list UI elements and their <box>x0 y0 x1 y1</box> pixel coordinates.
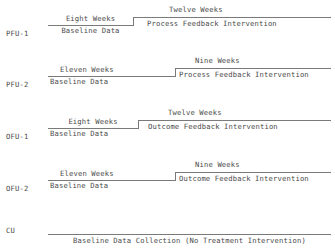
intervention-rule-ofu-2 <box>175 172 331 173</box>
intervention-phase-pfu-2: Nine Weeks Process Feedback Intervention <box>175 56 331 80</box>
group-label-cu: CU <box>6 226 15 235</box>
baseline-phase-ofu-1: Eight Weeks Baseline Data <box>48 117 138 141</box>
baseline-duration-ofu-1: Eight Weeks <box>48 117 138 126</box>
group-label-ofu-1: OFU-1 <box>6 132 28 141</box>
intervention-duration-pfu-1: Twelve Weeks <box>133 5 335 14</box>
group-label-ofu-2: OFU-2 <box>6 184 28 193</box>
intervention-phase-ofu-1: Twelve Weeks Outcome Feedback Interventi… <box>138 108 331 132</box>
intervention-duration-pfu-2: Nine Weeks <box>175 56 335 65</box>
step-riser-ofu-1 <box>138 120 139 129</box>
intervention-duration-ofu-1: Twelve Weeks <box>138 108 335 117</box>
research-design-diagram: PFU-1 Twelve Weeks Process Feedback Inte… <box>0 0 335 248</box>
intervention-phase-ofu-2: Nine Weeks Outcome Feedback Intervention <box>175 160 331 184</box>
design-row-ofu-1: OFU-1 Twelve Weeks Outcome Feedback Inte… <box>0 103 335 151</box>
intervention-activity-ofu-1: Outcome Feedback Intervention <box>138 122 335 131</box>
intervention-duration-ofu-2: Nine Weeks <box>175 160 335 169</box>
baseline-activity-ofu-2: Baseline Data <box>48 181 177 190</box>
baseline-duration-pfu-2: Eleven Weeks <box>48 65 187 74</box>
baseline-duration-ofu-2: Eleven Weeks <box>48 169 187 178</box>
intervention-phase-pfu-1: Twelve Weeks Process Feedback Interventi… <box>133 5 331 29</box>
baseline-activity-pfu-2: Baseline Data <box>48 77 177 86</box>
baseline-activity-ofu-1: Baseline Data <box>48 129 140 138</box>
baseline-phase-ofu-2: Eleven Weeks Baseline Data <box>48 169 175 193</box>
baseline-duration-pfu-1: Eight Weeks <box>48 14 133 23</box>
design-row-pfu-1: PFU-1 Twelve Weeks Process Feedback Inte… <box>0 0 335 48</box>
baseline-phase-pfu-2: Eleven Weeks Baseline Data <box>48 65 175 89</box>
step-riser-pfu-1 <box>133 17 134 26</box>
group-label-pfu-1: PFU-1 <box>6 29 28 38</box>
design-row-pfu-2: PFU-2 Nine Weeks Process Feedback Interv… <box>0 51 335 99</box>
intervention-rule-pfu-1 <box>133 17 331 18</box>
intervention-rule-ofu-1 <box>138 120 331 121</box>
control-rule-cu <box>48 234 331 235</box>
baseline-activity-pfu-1: Baseline Data <box>48 26 133 35</box>
intervention-activity-pfu-2: Process Feedback Intervention <box>175 70 335 79</box>
intervention-rule-pfu-2 <box>175 68 331 69</box>
intervention-activity-pfu-1: Process Feedback Intervention <box>133 19 335 28</box>
control-activity-cu: Baseline Data Collection (No Treatment I… <box>48 236 331 245</box>
design-row-cu: CU Baseline Data Collection (No Treatmen… <box>0 215 335 248</box>
baseline-phase-pfu-1: Eight Weeks Baseline Data <box>48 14 133 38</box>
intervention-activity-ofu-2: Outcome Feedback Intervention <box>175 174 335 183</box>
group-label-pfu-2: PFU-2 <box>6 80 28 89</box>
design-row-ofu-2: OFU-2 Nine Weeks Outcome Feedback Interv… <box>0 155 335 203</box>
